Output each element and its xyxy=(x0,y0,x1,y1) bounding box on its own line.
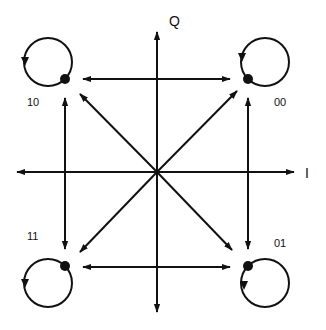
i-axis-label: I xyxy=(305,165,309,181)
loop-arrow-11-icon xyxy=(21,279,29,288)
state-label-01: 01 xyxy=(274,237,286,249)
state-label-11: 11 xyxy=(27,230,38,242)
loop-arrow-00-icon xyxy=(238,53,246,62)
constellation-diagram xyxy=(0,0,326,330)
transition-diag-01 xyxy=(157,172,232,250)
transition-diag-00 xyxy=(157,91,237,172)
state-dot-00 xyxy=(243,74,253,84)
state-dot-11 xyxy=(60,261,70,271)
state-dot-10 xyxy=(60,74,70,84)
q-axis-label: Q xyxy=(169,13,180,29)
state-dot-01 xyxy=(243,261,253,271)
transition-diag-11 xyxy=(80,172,157,252)
loop-arrow-10-icon xyxy=(21,57,29,66)
state-label-10: 10 xyxy=(27,96,39,108)
state-label-00: 00 xyxy=(274,96,286,108)
transition-diag-10 xyxy=(80,94,157,172)
